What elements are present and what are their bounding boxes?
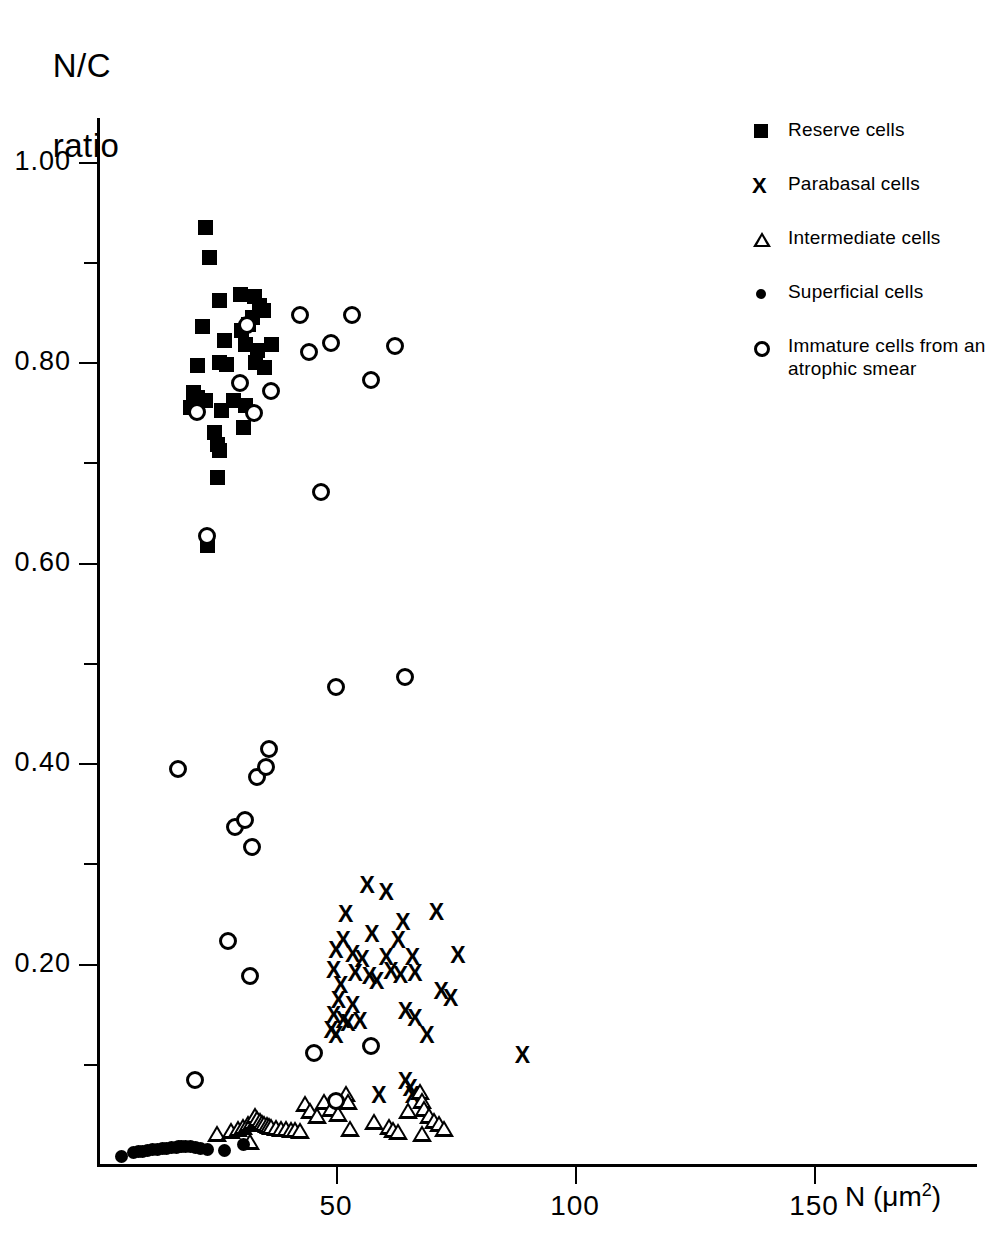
data-point-filled-square <box>264 337 279 352</box>
y-tick-label: 0.40 <box>14 747 71 778</box>
y-tick-major: 0.80 <box>79 362 97 364</box>
data-point-x-cross: X <box>512 1046 532 1066</box>
y-tick-major: 0.20 <box>79 964 97 966</box>
legend-item: Intermediate cells <box>752 226 992 253</box>
data-point-filled-square <box>212 293 227 308</box>
data-point-open-circle <box>169 760 187 778</box>
data-point-open-triangle <box>412 1125 432 1142</box>
data-point-x-cross: X <box>417 1026 437 1046</box>
data-point-open-triangle <box>388 1123 408 1140</box>
legend-item-label: Parabasal cells <box>788 172 992 195</box>
data-point-filled-square <box>210 470 225 485</box>
data-point-open-circle <box>238 316 256 334</box>
x-axis-title: N (μm2) <box>845 1180 941 1213</box>
legend-marker-filled-square-icon <box>752 121 778 141</box>
data-point-open-circle <box>245 404 263 422</box>
y-tick-minor <box>84 863 97 865</box>
legend-item: Superficial cells <box>752 280 992 307</box>
data-point-x-cross: X <box>376 883 396 903</box>
data-point-filled-square <box>236 420 251 435</box>
x-tick <box>336 1167 338 1184</box>
data-point-x-cross: X <box>369 1086 389 1106</box>
y-tick-minor <box>84 462 97 464</box>
scatter-plot-figure: N/C ratio 1.000.800.600.400.2050100150 X… <box>0 0 994 1240</box>
x-axis-title-text: N (μm <box>845 1181 922 1212</box>
data-point-filled-square <box>190 358 205 373</box>
data-point-open-circle <box>241 967 259 985</box>
data-point-filled-square <box>257 360 272 375</box>
data-point-filled-square <box>217 333 232 348</box>
data-point-filled-dot <box>218 1144 231 1157</box>
legend: Reserve cellsXParabasal cellsIntermediat… <box>752 118 992 407</box>
data-point-open-circle <box>231 374 249 392</box>
data-point-x-cross: X <box>362 925 382 945</box>
legend-item-label: Reserve cells <box>788 118 992 141</box>
data-point-open-circle <box>386 337 404 355</box>
data-point-open-circle <box>322 334 340 352</box>
y-tick-minor <box>84 663 97 665</box>
legend-item-label: Immature cells from an atrophic smear <box>788 334 992 380</box>
open-circle-icon <box>754 341 770 357</box>
x-tick <box>814 1167 816 1184</box>
data-point-x-cross: X <box>367 972 387 992</box>
x-cross-icon: X <box>752 173 767 199</box>
data-point-x-cross: X <box>336 905 356 925</box>
data-point-filled-square <box>198 220 213 235</box>
x-axis-title-exponent: 2 <box>922 1180 932 1200</box>
data-point-open-circle <box>262 382 280 400</box>
data-point-filled-square <box>195 319 210 334</box>
y-tick-minor <box>84 1064 97 1066</box>
data-point-open-circle <box>236 811 254 829</box>
data-point-filled-square <box>202 250 217 265</box>
x-tick-label: 50 <box>319 1190 352 1222</box>
data-point-filled-square <box>219 357 234 372</box>
x-axis-title-close: ) <box>932 1181 941 1212</box>
data-point-open-triangle <box>434 1120 454 1137</box>
y-tick-major: 0.40 <box>79 763 97 765</box>
legend-marker-filled-dot-icon <box>752 283 778 303</box>
y-axis-line <box>97 118 100 1167</box>
y-tick-label: 0.20 <box>14 948 71 979</box>
data-point-open-circle <box>186 1071 204 1089</box>
x-axis-line <box>97 1164 977 1167</box>
data-point-open-triangle <box>340 1120 360 1137</box>
legend-marker-open-triangle-icon <box>752 229 778 249</box>
legend-item: Immature cells from an atrophic smear <box>752 334 992 380</box>
y-tick-major: 0.60 <box>79 563 97 565</box>
data-point-open-circle <box>243 838 261 856</box>
data-point-x-cross: X <box>326 1026 346 1046</box>
x-tick <box>575 1167 577 1184</box>
data-point-x-cross: X <box>357 876 377 896</box>
data-point-open-circle <box>343 306 361 324</box>
data-point-open-circle <box>219 932 237 950</box>
y-tick-major: 1.00 <box>79 162 97 164</box>
x-tick-label: 150 <box>789 1190 839 1222</box>
data-point-open-circle <box>260 740 278 758</box>
data-point-open-circle <box>396 668 414 686</box>
data-point-filled-square <box>212 443 227 458</box>
y-tick-label: 0.60 <box>14 547 71 578</box>
filled-dot-icon <box>756 289 766 299</box>
data-point-open-circle <box>291 306 309 324</box>
open-triangle-icon <box>753 232 771 247</box>
legend-item-label: Intermediate cells <box>788 226 992 249</box>
legend-item-label: Superficial cells <box>788 280 992 303</box>
data-point-open-circle <box>327 678 345 696</box>
data-point-open-circle <box>312 483 330 501</box>
y-tick-label: 1.00 <box>14 146 71 177</box>
y-tick-label: 0.80 <box>14 346 71 377</box>
data-point-x-cross: X <box>350 1012 370 1032</box>
data-point-open-circle <box>257 758 275 776</box>
data-point-open-circle <box>300 343 318 361</box>
data-point-x-cross: X <box>426 903 446 923</box>
data-point-open-circle <box>362 1037 380 1055</box>
data-point-open-triangle <box>290 1122 310 1139</box>
data-point-filled-square <box>214 403 229 418</box>
data-point-open-circle <box>362 371 380 389</box>
data-point-open-circle <box>198 527 216 545</box>
legend-item: Reserve cells <box>752 118 992 145</box>
filled-square-icon <box>754 124 768 138</box>
data-point-x-cross: X <box>448 946 468 966</box>
x-tick-label: 100 <box>550 1190 600 1222</box>
legend-marker-open-circle-icon <box>752 337 778 357</box>
